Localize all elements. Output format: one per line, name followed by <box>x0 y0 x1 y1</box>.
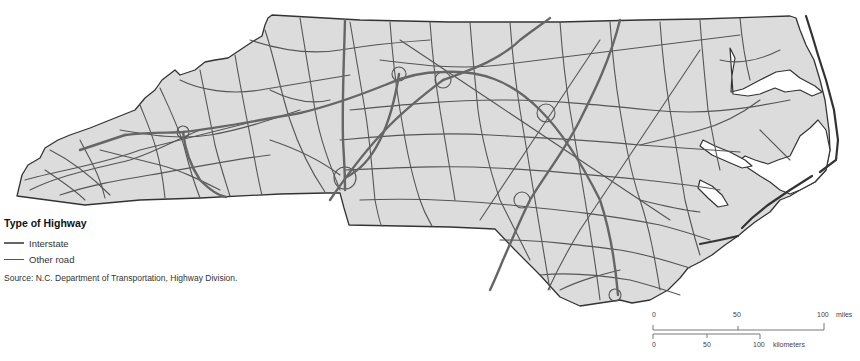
legend-title: Type of Highway <box>4 217 237 229</box>
miles-tick-0: 0 <box>652 311 656 318</box>
legend-item-interstate: Interstate <box>4 235 237 251</box>
other-road-line-icon <box>4 259 24 260</box>
legend: Type of Highway Interstate Other road So… <box>4 217 237 283</box>
interstate-line-icon <box>4 242 24 244</box>
km-tick-50: 50 <box>703 341 711 348</box>
legend-item-label: Other road <box>29 254 74 265</box>
km-tick-0: 0 <box>652 341 656 348</box>
source-note: Source: N.C. Department of Transportatio… <box>4 273 237 283</box>
miles-unit: miles <box>836 311 852 318</box>
legend-item-other-road: Other road <box>4 251 237 267</box>
miles-tick-50: 50 <box>733 311 741 318</box>
north-carolina-highway-map <box>0 0 860 361</box>
scale-bar: 0 50 100 miles 0 50 100 kilometers <box>650 308 860 358</box>
km-tick-100: 100 <box>753 341 765 348</box>
legend-item-label: Interstate <box>29 238 69 249</box>
km-unit: kilometers <box>773 341 805 348</box>
miles-tick-100: 100 <box>817 311 829 318</box>
